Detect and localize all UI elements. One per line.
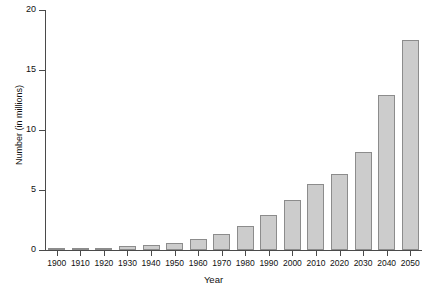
y-tick-label: 20 bbox=[0, 5, 36, 14]
x-tick bbox=[198, 251, 199, 256]
x-axis-title: Year bbox=[0, 274, 427, 285]
x-tick bbox=[57, 251, 58, 256]
y-tick-label: 10 bbox=[0, 125, 36, 134]
x-tick bbox=[387, 251, 388, 256]
x-tick bbox=[245, 251, 246, 256]
y-tick-label: 0 bbox=[0, 245, 36, 254]
bar-2010 bbox=[307, 184, 324, 250]
x-tick bbox=[340, 251, 341, 256]
bar-2000 bbox=[284, 200, 301, 250]
x-tick bbox=[292, 251, 293, 256]
bar-1960 bbox=[190, 239, 207, 250]
bar-1910 bbox=[72, 248, 89, 250]
x-tick bbox=[269, 251, 270, 256]
bar-chart: Number (in millions) 05101520 1900191019… bbox=[0, 0, 427, 293]
bar-2050 bbox=[402, 40, 419, 250]
y-tick-label: 5 bbox=[0, 185, 36, 194]
x-tick bbox=[80, 251, 81, 256]
bar-1990 bbox=[260, 215, 277, 250]
bar-1980 bbox=[237, 226, 254, 250]
bar-series bbox=[45, 10, 422, 250]
bar-1930 bbox=[119, 246, 136, 250]
bar-2030 bbox=[355, 152, 372, 250]
bar-1970 bbox=[213, 234, 230, 250]
x-tick-label: 2050 bbox=[393, 258, 427, 268]
x-axis-line bbox=[45, 250, 422, 251]
x-tick bbox=[151, 251, 152, 256]
x-tick bbox=[410, 251, 411, 256]
bar-1900 bbox=[48, 248, 65, 250]
x-tick bbox=[316, 251, 317, 256]
bar-1950 bbox=[166, 243, 183, 250]
y-tick bbox=[39, 250, 45, 251]
x-tick bbox=[175, 251, 176, 256]
x-tick bbox=[363, 251, 364, 256]
y-tick-label: 15 bbox=[0, 65, 36, 74]
x-tick bbox=[127, 251, 128, 256]
bar-1920 bbox=[95, 248, 112, 250]
x-tick bbox=[222, 251, 223, 256]
x-tick bbox=[104, 251, 105, 256]
bar-2020 bbox=[331, 174, 348, 250]
bar-2040 bbox=[378, 95, 395, 250]
bar-1940 bbox=[143, 245, 160, 250]
